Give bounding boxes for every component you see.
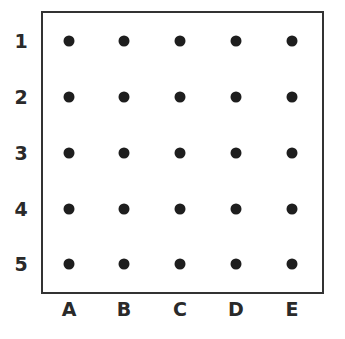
dot-a1 [64,36,75,47]
dot-c2 [175,92,186,103]
dot-e1 [287,36,298,47]
dot-d2 [231,92,242,103]
dot-b4 [119,204,130,215]
dot-a3 [64,148,75,159]
dot-e2 [287,92,298,103]
dot-e3 [287,148,298,159]
row-label-1: 1 [10,32,32,51]
dot-c5 [175,259,186,270]
row-label-2: 2 [10,88,32,107]
dot-a5 [64,259,75,270]
column-label-c: C [168,300,192,319]
dot-a2 [64,92,75,103]
dot-e4 [287,204,298,215]
row-label-3: 3 [10,144,32,163]
dot-c1 [175,36,186,47]
dot-b3 [119,148,130,159]
dot-d3 [231,148,242,159]
dot-c3 [175,148,186,159]
dot-d5 [231,259,242,270]
dot-b5 [119,259,130,270]
row-label-5: 5 [10,255,32,274]
dot-a4 [64,204,75,215]
column-label-a: A [57,300,81,319]
column-label-e: E [280,300,304,319]
column-label-b: B [112,300,136,319]
dot-c4 [175,204,186,215]
dot-d4 [231,204,242,215]
dot-b1 [119,36,130,47]
dot-d1 [231,36,242,47]
row-label-4: 4 [10,200,32,219]
column-label-d: D [224,300,248,319]
dot-e5 [287,259,298,270]
dot-b2 [119,92,130,103]
